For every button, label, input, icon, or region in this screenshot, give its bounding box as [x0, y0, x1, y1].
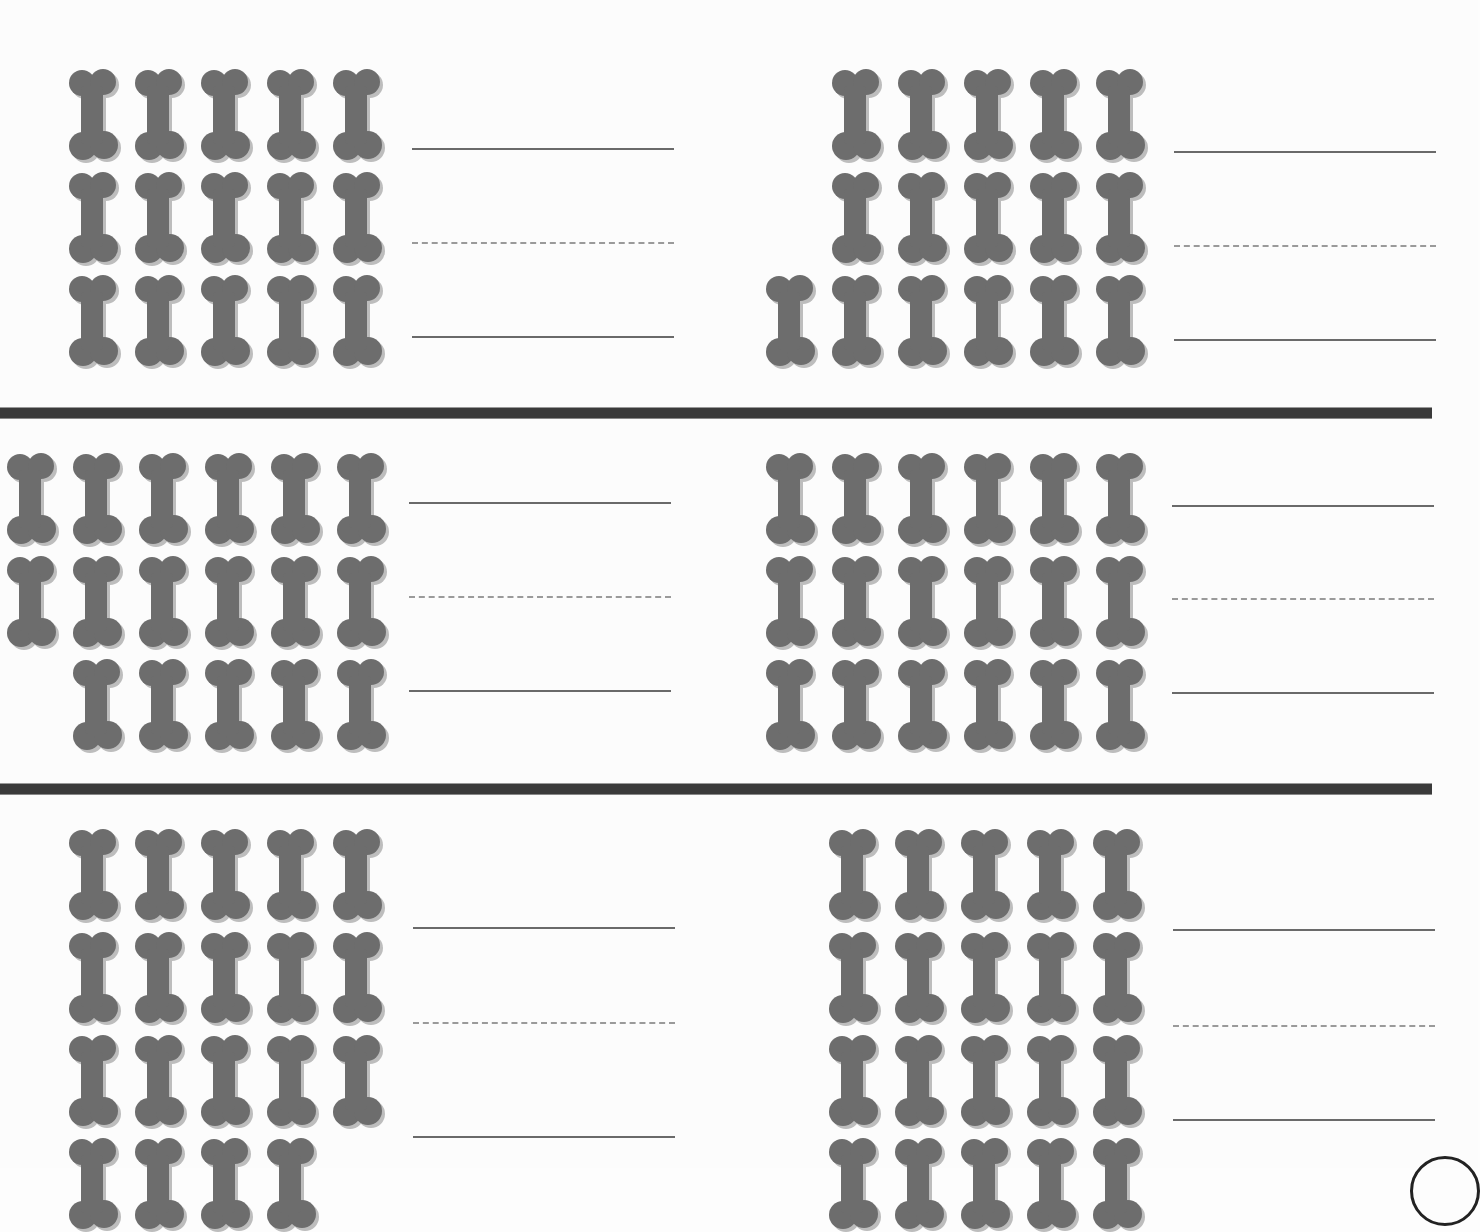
dog-bone-icon: [199, 274, 255, 369]
dog-bone-icon: [199, 1137, 255, 1232]
dog-bone-icon: [896, 171, 952, 266]
dog-bone-icon: [1094, 68, 1150, 163]
dog-bone-icon: [133, 931, 189, 1026]
dog-bone-icon: [71, 658, 127, 753]
dog-bone-icon: [827, 1137, 883, 1232]
dog-bone-icon: [893, 828, 949, 923]
dog-bone-icon: [133, 171, 189, 266]
dog-bone-icon: [203, 658, 259, 753]
dog-bone-icon: [265, 274, 321, 369]
page-number-circle: [1410, 1156, 1480, 1226]
answer-line[interactable]: [1173, 1119, 1435, 1121]
answer-line[interactable]: [409, 502, 671, 504]
dog-bone-icon: [67, 1034, 123, 1129]
answer-line[interactable]: [412, 148, 674, 150]
dog-bone-icon: [962, 658, 1018, 753]
dog-bone-icon: [137, 658, 193, 753]
dog-bone-icon: [959, 828, 1015, 923]
dog-bone-icon: [265, 931, 321, 1026]
dog-bone-icon: [896, 452, 952, 547]
dog-bone-icon: [959, 1137, 1015, 1232]
dog-bone-icon: [199, 828, 255, 923]
answer-midline-dashed[interactable]: [1174, 245, 1436, 247]
dog-bone-icon: [67, 931, 123, 1026]
dog-bone-icon: [893, 931, 949, 1026]
dog-bone-icon: [959, 931, 1015, 1026]
dog-bone-icon: [962, 274, 1018, 369]
answer-midline-dashed[interactable]: [409, 596, 671, 598]
dog-bone-icon: [1025, 931, 1081, 1026]
dog-bone-icon: [265, 171, 321, 266]
answer-line[interactable]: [1173, 929, 1435, 931]
dog-bone-icon: [137, 555, 193, 650]
answer-line[interactable]: [1174, 339, 1436, 341]
dog-bone-icon: [133, 1034, 189, 1129]
dog-bone-icon: [1028, 274, 1084, 369]
dog-bone-icon: [133, 1137, 189, 1232]
dog-bone-icon: [1028, 171, 1084, 266]
dog-bone-icon: [331, 171, 387, 266]
section-divider: [0, 408, 1432, 418]
dog-bone-icon: [896, 274, 952, 369]
dog-bone-icon: [896, 555, 952, 650]
dog-bone-icon: [199, 1034, 255, 1129]
dog-bone-icon: [962, 68, 1018, 163]
dog-bone-icon: [764, 274, 820, 369]
dog-bone-icon: [959, 1034, 1015, 1129]
answer-line[interactable]: [413, 927, 675, 929]
dog-bone-icon: [67, 68, 123, 163]
dog-bone-icon: [5, 555, 61, 650]
dog-bone-icon: [1091, 828, 1147, 923]
dog-bone-icon: [962, 171, 1018, 266]
dog-bone-icon: [764, 555, 820, 650]
dog-bone-icon: [1028, 68, 1084, 163]
dog-bone-icon: [67, 1137, 123, 1232]
dog-bone-icon: [1025, 1034, 1081, 1129]
dog-bone-icon: [1091, 1137, 1147, 1232]
dog-bone-icon: [133, 274, 189, 369]
dog-bone-icon: [1025, 1137, 1081, 1232]
dog-bone-icon: [1028, 555, 1084, 650]
answer-midline-dashed[interactable]: [1173, 1025, 1435, 1027]
dog-bone-icon: [1094, 171, 1150, 266]
dog-bone-icon: [335, 658, 391, 753]
dog-bone-icon: [67, 171, 123, 266]
dog-bone-icon: [265, 1137, 321, 1232]
dog-bone-icon: [1094, 452, 1150, 547]
dog-bone-icon: [331, 1034, 387, 1129]
dog-bone-icon: [1094, 658, 1150, 753]
dog-bone-icon: [199, 171, 255, 266]
answer-midline-dashed[interactable]: [412, 242, 674, 244]
answer-line[interactable]: [1172, 505, 1434, 507]
answer-line[interactable]: [409, 690, 671, 692]
dog-bone-icon: [199, 68, 255, 163]
dog-bone-icon: [269, 452, 325, 547]
answer-line[interactable]: [412, 336, 674, 338]
dog-bone-icon: [830, 555, 886, 650]
answer-line[interactable]: [1172, 692, 1434, 694]
dog-bone-icon: [67, 828, 123, 923]
dog-bone-icon: [827, 931, 883, 1026]
dog-bone-icon: [331, 828, 387, 923]
dog-bone-icon: [1091, 931, 1147, 1026]
answer-midline-dashed[interactable]: [1172, 598, 1434, 600]
answer-midline-dashed[interactable]: [413, 1022, 675, 1024]
answer-line[interactable]: [1174, 151, 1436, 153]
dog-bone-icon: [133, 68, 189, 163]
dog-bone-icon: [830, 658, 886, 753]
dog-bone-icon: [1094, 274, 1150, 369]
dog-bone-icon: [1028, 452, 1084, 547]
dog-bone-icon: [137, 452, 193, 547]
dog-bone-icon: [5, 452, 61, 547]
dog-bone-icon: [830, 274, 886, 369]
dog-bone-icon: [133, 828, 189, 923]
dog-bone-icon: [335, 452, 391, 547]
dog-bone-icon: [827, 828, 883, 923]
dog-bone-icon: [896, 68, 952, 163]
dog-bone-icon: [1028, 658, 1084, 753]
answer-line[interactable]: [413, 1136, 675, 1138]
dog-bone-icon: [962, 555, 1018, 650]
dog-bone-icon: [265, 828, 321, 923]
dog-bone-icon: [265, 68, 321, 163]
